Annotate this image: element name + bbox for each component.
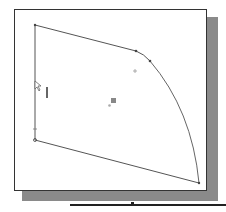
top-edge-line[interactable]: [35, 25, 136, 51]
bottom-edge-line[interactable]: [35, 140, 199, 183]
endpoint-top-left[interactable]: [34, 24, 36, 26]
fillet-segment[interactable]: [136, 51, 150, 61]
endpoint-top-right[interactable]: [135, 50, 138, 53]
endpoint-arc-end[interactable]: [198, 182, 200, 184]
origin-point-icon: [108, 98, 116, 107]
endpoint-arc-start[interactable]: [149, 60, 152, 63]
arrow-cursor-icon: [35, 81, 41, 91]
sketch-canvas[interactable]: [0, 0, 226, 212]
bottom-toolbar-edge: [70, 204, 226, 206]
right-arc[interactable]: [150, 61, 199, 183]
vertical-constraint-icon: [46, 87, 48, 98]
arc-center-cross-icon: [133, 69, 137, 73]
bottom-toolbar-notch: [131, 202, 134, 206]
